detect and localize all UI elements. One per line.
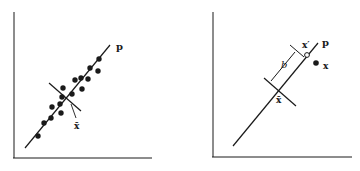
right-label-b: b xyxy=(281,59,287,70)
data-point xyxy=(58,110,63,115)
data-point xyxy=(41,120,46,125)
data-point xyxy=(69,91,74,96)
data-point xyxy=(79,86,84,91)
figure: p x̄ p x′ x b x̄ xyxy=(0,0,360,171)
left-panel: p x̄ xyxy=(13,12,152,158)
data-point xyxy=(85,76,90,81)
right-label-x: x xyxy=(323,61,329,71)
right-label-x-prime: x′ xyxy=(302,40,310,50)
projection-point-x-prime xyxy=(305,53,310,58)
data-point xyxy=(72,77,77,82)
right-panel: p x′ x b x̄ xyxy=(212,12,352,157)
data-point xyxy=(95,68,100,73)
right-label-mean: x̄ xyxy=(276,95,282,105)
data-point-x xyxy=(313,60,319,66)
data-point xyxy=(87,65,92,70)
right-label-p: p xyxy=(322,37,329,48)
data-point xyxy=(78,75,83,80)
left-label-mean: x̄ xyxy=(74,121,80,131)
data-point xyxy=(48,115,53,120)
data-point xyxy=(96,56,101,61)
data-points xyxy=(35,56,101,138)
data-point xyxy=(60,85,65,90)
data-point xyxy=(59,94,64,99)
data-point xyxy=(57,101,62,106)
data-point xyxy=(49,104,54,109)
data-point xyxy=(35,133,40,138)
left-label-p: p xyxy=(116,41,123,52)
